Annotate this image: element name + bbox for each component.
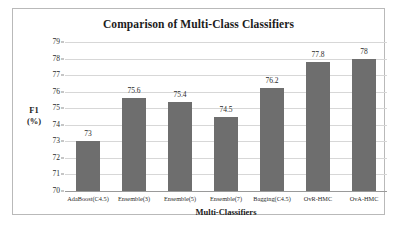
gridline-70 (65, 191, 387, 192)
y-tick-mark-70 (61, 191, 64, 192)
chart-screenshot: Comparison of Multi-Class Classifiers F1… (0, 0, 400, 228)
bar-value-label: 74.5 (219, 106, 232, 114)
y-axis-title-line-1: F1 (19, 105, 49, 116)
bar-group[interactable]: 74.5Ensemble(7) (203, 42, 249, 191)
bar[interactable] (260, 88, 284, 191)
bars-layer: 73AdaBoost(C4.5)75.6Ensemble(3)75.4Ensem… (65, 42, 387, 191)
y-tick-label-76: 76 (53, 88, 61, 96)
y-tick-mark-77 (61, 75, 64, 76)
chart-title: Comparison of Multi-Class Classifiers (13, 18, 384, 30)
y-tick-label-78: 78 (53, 55, 61, 63)
bar[interactable] (214, 117, 238, 192)
bar-value-label: 78 (360, 48, 368, 56)
x-category-label: Bagging(C4.5) (253, 196, 291, 202)
y-tick-label-77: 77 (53, 71, 61, 79)
x-axis-title: Multi-Classifiers (65, 207, 387, 217)
y-tick-mark-79 (61, 42, 64, 43)
y-tick-label-71: 71 (53, 171, 61, 179)
y-tick-label-73: 73 (53, 138, 61, 146)
chart-frame: Comparison of Multi-Class Classifiers F1… (12, 8, 385, 215)
y-tick-mark-73 (61, 141, 64, 142)
bar[interactable] (168, 102, 192, 191)
y-tick-mark-74 (61, 124, 64, 125)
bar[interactable] (352, 59, 376, 191)
y-tick-mark-72 (61, 157, 64, 158)
y-axis-title: F1 (%) (19, 105, 49, 127)
y-tick-label-70: 70 (53, 187, 61, 195)
x-category-label: AdaBoost(C4.5) (67, 196, 108, 202)
y-tick-label-79: 79 (53, 38, 61, 46)
y-tick-label-75: 75 (53, 104, 61, 112)
bar-group[interactable]: 76.2Bagging(C4.5) (249, 42, 295, 191)
x-category-label: Ensemble(5) (164, 196, 196, 202)
y-tick-mark-76 (61, 91, 64, 92)
bar-value-label: 75.4 (173, 91, 186, 99)
bar-value-label: 76.2 (265, 77, 278, 85)
bar-group[interactable]: 78OvA-HMC (341, 42, 387, 191)
bar-value-label: 75.6 (127, 87, 140, 95)
bar-group[interactable]: 77.8OvR-HMC (295, 42, 341, 191)
y-tick-label-72: 72 (53, 154, 61, 162)
bar-value-label: 77.8 (311, 51, 324, 59)
plot-area: 79787776757473727170 73AdaBoost(C4.5)75.… (65, 42, 387, 191)
x-category-label: OvA-HMC (350, 196, 379, 202)
y-axis-title-line-2: (%) (19, 116, 49, 127)
bar[interactable] (306, 62, 330, 191)
y-tick-mark-78 (61, 58, 64, 59)
x-category-label: Ensemble(3) (118, 196, 150, 202)
bar-group[interactable]: 73AdaBoost(C4.5) (65, 42, 111, 191)
y-tick-mark-75 (61, 108, 64, 109)
y-tick-mark-71 (61, 174, 64, 175)
bar-value-label: 73 (84, 130, 92, 138)
x-category-label: Ensemble(7) (210, 196, 242, 202)
bar[interactable] (122, 98, 146, 191)
y-tick-label-74: 74 (53, 121, 61, 129)
bar[interactable] (76, 141, 100, 191)
bar-group[interactable]: 75.4Ensemble(5) (157, 42, 203, 191)
x-category-label: OvR-HMC (304, 196, 332, 202)
bar-group[interactable]: 75.6Ensemble(3) (111, 42, 157, 191)
